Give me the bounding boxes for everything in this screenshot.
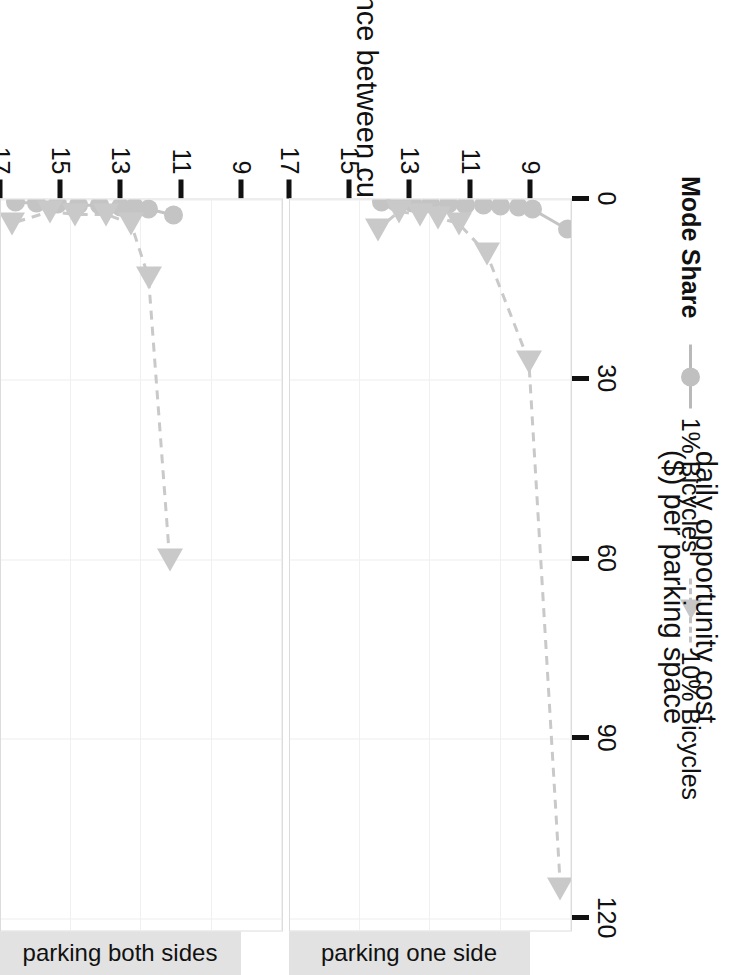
y-axis-ticks: 911131517911131517 bbox=[0, 136, 734, 198]
data-point-triangle bbox=[0, 212, 25, 235]
data-point-triangle bbox=[365, 218, 391, 241]
y-tick-label: 9 bbox=[227, 160, 256, 174]
series-line bbox=[378, 211, 561, 888]
chart-figure: Mode Share 1% Bicycles 10% Bicycles dist… bbox=[0, 0, 734, 975]
data-point-triangle bbox=[474, 242, 500, 265]
x-tick-label: 120 bbox=[592, 896, 621, 938]
x-tick-mark bbox=[572, 915, 589, 920]
y-tick-mark bbox=[347, 179, 352, 198]
x-axis-title-line1: daily opportunity cost bbox=[690, 450, 722, 722]
panel-canvas bbox=[289, 198, 572, 931]
y-tick-label: 15 bbox=[46, 146, 75, 174]
data-point-circle bbox=[558, 219, 572, 238]
panel-canvas bbox=[0, 198, 283, 931]
chart-panels: parking one sideparking both sides bbox=[0, 198, 572, 975]
panel-strip-label: parking one side bbox=[289, 929, 530, 975]
y-tick-mark bbox=[407, 179, 412, 198]
x-tick-mark bbox=[572, 196, 589, 201]
x-axis-ticks: 0306090120 bbox=[572, 198, 646, 975]
y-tick-label: 15 bbox=[335, 146, 364, 174]
data-point-triangle bbox=[93, 203, 119, 226]
y-tick-label: 17 bbox=[0, 146, 15, 174]
y-tick-label: 9 bbox=[516, 160, 545, 174]
x-tick-label: 0 bbox=[592, 191, 621, 205]
y-tick-label: 17 bbox=[275, 146, 304, 174]
data-point-triangle bbox=[62, 203, 88, 226]
data-point-circle bbox=[164, 205, 183, 224]
data-point-triangle bbox=[37, 200, 63, 223]
data-point-triangle bbox=[157, 548, 183, 571]
y-tick-mark bbox=[528, 179, 533, 198]
data-point-triangle bbox=[547, 877, 572, 900]
x-tick-label: 30 bbox=[592, 364, 621, 392]
y-axis-title: distance between curbs (m) bbox=[0, 86, 734, 136]
data-point-triangle bbox=[136, 266, 162, 289]
x-tick-label: 90 bbox=[592, 723, 621, 751]
series-lines bbox=[1, 199, 282, 930]
panel-strip-text: parking one side bbox=[321, 938, 497, 966]
chart-panel: parking both sides bbox=[0, 198, 283, 975]
y-tick-label: 11 bbox=[455, 148, 484, 174]
data-point-triangle bbox=[118, 212, 144, 235]
y-tick-label: 11 bbox=[166, 148, 195, 174]
y-tick-mark bbox=[287, 179, 292, 198]
data-point-circle bbox=[474, 198, 493, 214]
y-tick-mark bbox=[118, 179, 123, 198]
y-tick-label: 13 bbox=[106, 146, 135, 174]
data-point-circle bbox=[491, 198, 510, 215]
y-tick-mark bbox=[58, 179, 63, 198]
data-point-triangle bbox=[516, 350, 542, 373]
x-axis-title-line2: ($) per parking space bbox=[658, 449, 690, 723]
y-tick-label: 13 bbox=[395, 146, 424, 174]
series-lines bbox=[290, 199, 571, 930]
x-tick-mark bbox=[572, 375, 589, 380]
panel-strip-label: parking both sides bbox=[0, 929, 241, 975]
chart-panel: parking one side bbox=[289, 198, 572, 975]
panel-strip-text: parking both sides bbox=[23, 938, 218, 966]
y-tick-mark bbox=[467, 179, 472, 198]
series-line bbox=[12, 211, 170, 559]
x-tick-mark bbox=[572, 555, 589, 560]
x-tick-label: 60 bbox=[592, 544, 621, 572]
y-tick-mark bbox=[178, 179, 183, 198]
y-tick-mark bbox=[0, 179, 3, 198]
x-axis-title: daily opportunity cost ($) per parking s… bbox=[646, 198, 734, 975]
y-tick-mark bbox=[239, 179, 244, 198]
x-tick-mark bbox=[572, 735, 589, 740]
data-point-circle bbox=[509, 198, 528, 216]
